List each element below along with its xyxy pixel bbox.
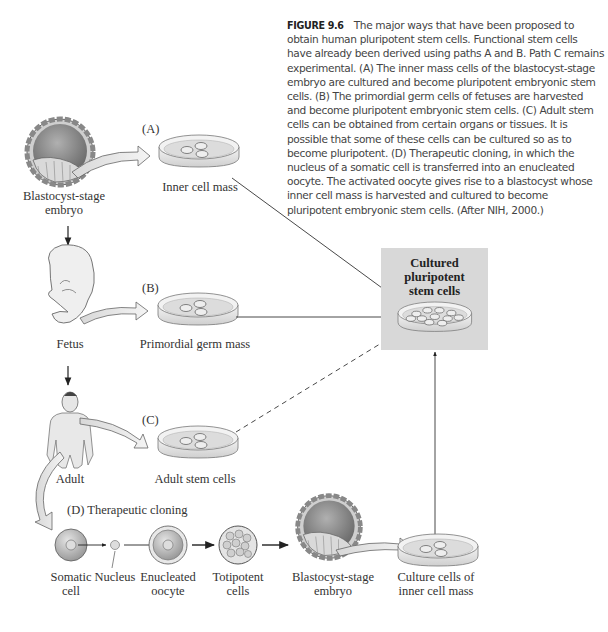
path-a-letter: (A) bbox=[142, 122, 159, 136]
label-totipotent-cells: Totipotent cells bbox=[206, 570, 270, 598]
label-nucleus: Nucleus bbox=[90, 570, 140, 584]
blastocyst-d-line1: Blastocyst-stage bbox=[283, 570, 383, 584]
title-line-3: stem cells bbox=[381, 284, 488, 298]
path-c-dish-label: Adult stem cells bbox=[140, 472, 250, 486]
label-blastocyst-d: Blastocyst-stage embryo bbox=[283, 570, 383, 598]
adult-human-illustration bbox=[47, 392, 93, 468]
label-blastocyst-line2: embryo bbox=[14, 203, 114, 217]
figure-caption-text: The major ways that have been proposed t… bbox=[287, 19, 604, 216]
label-adult: Adult bbox=[40, 472, 100, 486]
totipotent-cells-illustration bbox=[219, 526, 257, 564]
somatic-line2: cell bbox=[41, 584, 101, 598]
path-b-letter: (B) bbox=[142, 281, 159, 295]
figure-caption: FIGURE 9.6The major ways that have been … bbox=[287, 18, 605, 217]
enucleated-oocyte-illustration bbox=[149, 526, 187, 564]
label-blastocyst-line1: Blastocyst-stage bbox=[14, 189, 114, 203]
blastocyst-d-line2: embryo bbox=[283, 584, 383, 598]
totipotent-line1: Totipotent bbox=[206, 570, 270, 584]
enucleated-line1: Enucleated bbox=[136, 570, 200, 584]
label-culture-inner-cell-mass: Culture cells of inner cell mass bbox=[386, 570, 486, 598]
culture-line2: inner cell mass bbox=[386, 584, 486, 598]
path-c-letter: (C) bbox=[142, 413, 159, 427]
path-b-dish-label: Primordial germ mass bbox=[130, 337, 260, 351]
cultured-stem-cells-title: Cultured pluripotent stem cells bbox=[381, 256, 488, 298]
path-a-dish-label: Inner cell mass bbox=[150, 180, 250, 194]
title-line-2: pluripotent bbox=[381, 270, 488, 284]
nucleus-illustration bbox=[111, 541, 120, 569]
dish-cultured-pluripotent bbox=[398, 302, 472, 331]
totipotent-line2: cells bbox=[206, 584, 270, 598]
dish-adult-stem-cells bbox=[158, 426, 238, 458]
title-line-1: Cultured bbox=[381, 256, 488, 270]
big-arrow-b bbox=[80, 302, 148, 324]
label-blastocyst: Blastocyst-stage embryo bbox=[14, 189, 114, 217]
label-fetus: Fetus bbox=[40, 337, 100, 351]
dish-primordial-germ-mass bbox=[158, 293, 238, 325]
figure-label: FIGURE 9.6 bbox=[287, 19, 344, 31]
dish-inner-cell-mass bbox=[159, 135, 239, 167]
path-d-title: (D) Therapeutic cloning bbox=[67, 503, 188, 517]
fetus-illustration bbox=[48, 245, 94, 323]
label-enucleated-oocyte: Enucleated oocyte bbox=[136, 570, 200, 598]
enucleated-line2: oocyte bbox=[136, 584, 200, 598]
culture-line1: Culture cells of bbox=[386, 570, 486, 584]
dish-culture-cells-inner-mass bbox=[398, 534, 478, 566]
